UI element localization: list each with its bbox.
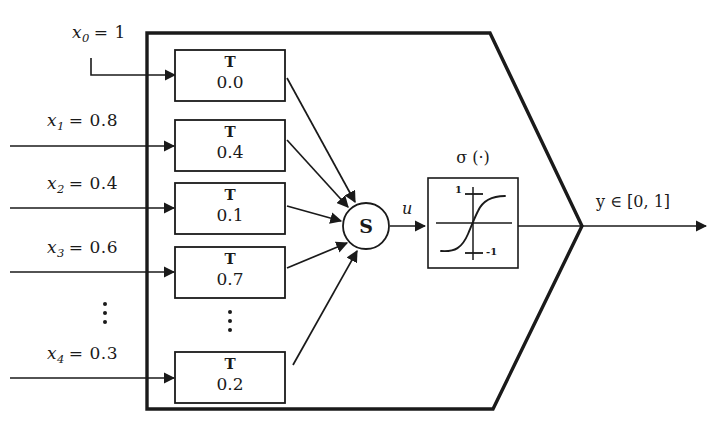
input-var-x2: x bbox=[47, 173, 57, 193]
input-label-x1: x1 = 0.8 bbox=[47, 110, 118, 133]
activation-title: σ (·) bbox=[428, 148, 518, 167]
input-sub-x0: 0 bbox=[82, 31, 90, 45]
input-value-x0: = 1 bbox=[94, 22, 126, 42]
input-ellipsis-dots bbox=[103, 297, 107, 329]
input-value-x2: = 0.4 bbox=[69, 173, 118, 193]
output-label: y ∈ [0, 1] bbox=[596, 192, 670, 211]
input-label-x0: x0 = 1 bbox=[72, 22, 126, 45]
tnorm-to-sum-3 bbox=[287, 206, 341, 221]
input-var-x0: x bbox=[72, 22, 82, 42]
input-line-x0 bbox=[91, 58, 175, 75]
tnorm-title-5: T bbox=[175, 355, 285, 373]
tnorm-to-sum-1 bbox=[287, 78, 355, 202]
input-var-x1: x bbox=[47, 110, 57, 130]
activation-tick-bottom-label: -1 bbox=[486, 246, 497, 257]
tnorm-value-5: 0.2 bbox=[175, 374, 285, 394]
input-value-x4: = 0.3 bbox=[69, 343, 118, 363]
tnorm-value-2: 0.4 bbox=[175, 142, 285, 162]
summation-glyph: S bbox=[343, 215, 389, 237]
tnorm-value-3: 0.1 bbox=[175, 205, 285, 225]
input-sub-x2: 2 bbox=[57, 182, 65, 196]
input-value-x1: = 0.8 bbox=[69, 110, 118, 130]
input-value-x3: = 0.6 bbox=[69, 237, 118, 257]
input-label-x4: x4 = 0.3 bbox=[47, 343, 118, 366]
tnorm-value-4: 0.7 bbox=[175, 269, 285, 289]
tnorm-to-sum-5 bbox=[293, 251, 357, 365]
input-sub-x1: 1 bbox=[57, 119, 65, 133]
tnorm-title-4: T bbox=[175, 250, 285, 268]
input-var-x3: x bbox=[47, 237, 57, 257]
input-label-x3: x3 = 0.6 bbox=[47, 237, 118, 260]
activation-tick-top-label: 1 bbox=[455, 184, 462, 195]
figure-root: x0 = 1 x1 = 0.8 x2 = 0.4 x3 = 0.6 x4 = 0… bbox=[0, 0, 718, 444]
tnorm-title-1: T bbox=[175, 53, 285, 71]
input-var-x4: x bbox=[47, 343, 57, 363]
input-label-x2: x2 = 0.4 bbox=[47, 173, 118, 196]
tnorm-title-2: T bbox=[175, 123, 285, 141]
tnorm-value-1: 0.0 bbox=[175, 72, 285, 92]
tnorm-title-3: T bbox=[175, 186, 285, 204]
input-sub-x4: 4 bbox=[57, 352, 65, 366]
tnorm-ellipsis-dots bbox=[228, 305, 232, 337]
input-sub-x3: 3 bbox=[57, 246, 65, 260]
signal-label-u: u bbox=[402, 199, 412, 218]
tnorm-to-sum-4 bbox=[287, 243, 347, 268]
